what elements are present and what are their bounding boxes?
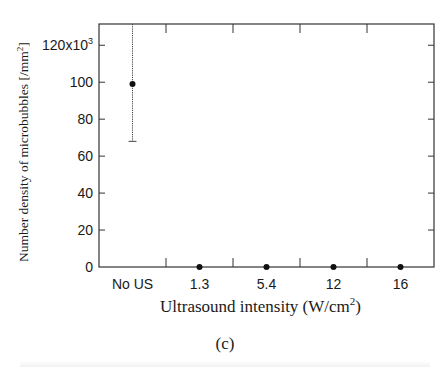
x-tick-label: No US <box>112 276 153 292</box>
y-tick-label: 20 <box>77 222 93 238</box>
x-tick-label: 1.3 <box>190 276 210 292</box>
chart: 020406080100120x103 No US1.35.41216 Numb… <box>0 0 447 367</box>
y-tick-label: 0 <box>85 259 93 275</box>
data-point <box>197 264 203 270</box>
cut-off-caption-line <box>20 361 430 367</box>
data-point <box>264 264 270 270</box>
y-tick-label: 60 <box>77 148 93 164</box>
data-point <box>331 264 337 270</box>
y-tick-label: 40 <box>77 185 93 201</box>
data-point <box>130 81 136 87</box>
y-tick-label: 100 <box>70 74 94 90</box>
panel-label: (c) <box>216 334 235 353</box>
x-axis-ticks: No US1.35.41216 <box>112 24 409 292</box>
plot-area-frame <box>99 24 434 267</box>
data-points <box>130 81 404 270</box>
y-tick-label: 120x103 <box>42 36 93 53</box>
y-tick-label: 80 <box>77 111 93 127</box>
y-axis-title: Number density of microbubbles [/mm2] <box>15 42 31 262</box>
x-tick-label: 12 <box>326 276 342 292</box>
x-tick-label: 16 <box>393 276 409 292</box>
data-point <box>398 264 404 270</box>
y-axis-ticks: 020406080100120x103 <box>42 36 434 275</box>
x-axis-title: Ultrasound intensity (W/cm2) <box>160 295 361 316</box>
x-tick-label: 5.4 <box>257 276 277 292</box>
